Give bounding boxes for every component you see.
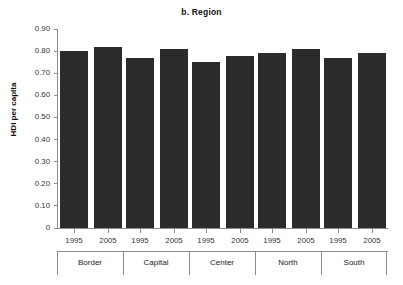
- group-band-divider: [57, 251, 388, 252]
- y-tick-label: 0.80: [35, 46, 50, 56]
- bar: [358, 53, 386, 228]
- bar-chart: b. Region HDI per capita 00.100.200.300.…: [0, 0, 403, 285]
- bar: [192, 62, 220, 228]
- x-axis-year-labels: 1995200519952005199520051995200519952005: [57, 229, 388, 251]
- y-tick: 0.40: [0, 135, 58, 145]
- bar: [292, 49, 320, 228]
- x-tick-mark: [108, 229, 109, 233]
- x-tick-mark: [338, 229, 339, 233]
- y-tick: 0.20: [0, 179, 58, 189]
- bar: [160, 49, 188, 228]
- y-tick: 0.90: [0, 24, 58, 34]
- y-tick-label: 0.10: [35, 201, 50, 211]
- y-tick-label: 0.70: [35, 68, 50, 78]
- x-year-label: 2005: [352, 236, 392, 245]
- y-tick-label: 0.40: [35, 135, 50, 145]
- x-tick-mark: [74, 229, 75, 233]
- group-label-capital: Capital: [123, 258, 189, 267]
- y-tick: 0.50: [0, 112, 58, 122]
- y-tick: 0.30: [0, 157, 58, 167]
- group-label-north: North: [255, 258, 321, 267]
- y-tick: 0.70: [0, 68, 58, 78]
- bar: [94, 47, 122, 228]
- bar: [60, 51, 88, 228]
- group-label-border: Border: [57, 258, 123, 267]
- y-tick-label: 0.30: [35, 157, 50, 167]
- y-tick-label: 0.90: [35, 24, 50, 34]
- bar: [126, 58, 154, 228]
- x-tick-mark: [306, 229, 307, 233]
- x-tick-mark: [174, 229, 175, 233]
- y-tick: 0: [0, 223, 58, 233]
- y-tick: 0.60: [0, 90, 58, 100]
- y-tick-label: 0.60: [35, 90, 50, 100]
- x-tick-mark: [140, 229, 141, 233]
- x-tick-mark: [240, 229, 241, 233]
- x-axis-group-labels: BorderCapitalCenterNorthSouth: [57, 251, 388, 275]
- plot-area: [58, 29, 388, 228]
- x-tick-mark: [206, 229, 207, 233]
- bar: [226, 56, 254, 228]
- y-tick-label: 0.50: [35, 112, 50, 122]
- y-tick: 0.10: [0, 201, 58, 211]
- y-tick-label: 0: [46, 223, 50, 233]
- bar: [258, 53, 286, 228]
- chart-title: b. Region: [0, 7, 403, 17]
- x-tick-mark: [272, 229, 273, 233]
- group-label-center: Center: [189, 258, 255, 267]
- group-label-south: South: [321, 258, 387, 267]
- y-tick: 0.80: [0, 46, 58, 56]
- x-tick-mark: [372, 229, 373, 233]
- bar: [324, 58, 352, 228]
- y-tick-label: 0.20: [35, 179, 50, 189]
